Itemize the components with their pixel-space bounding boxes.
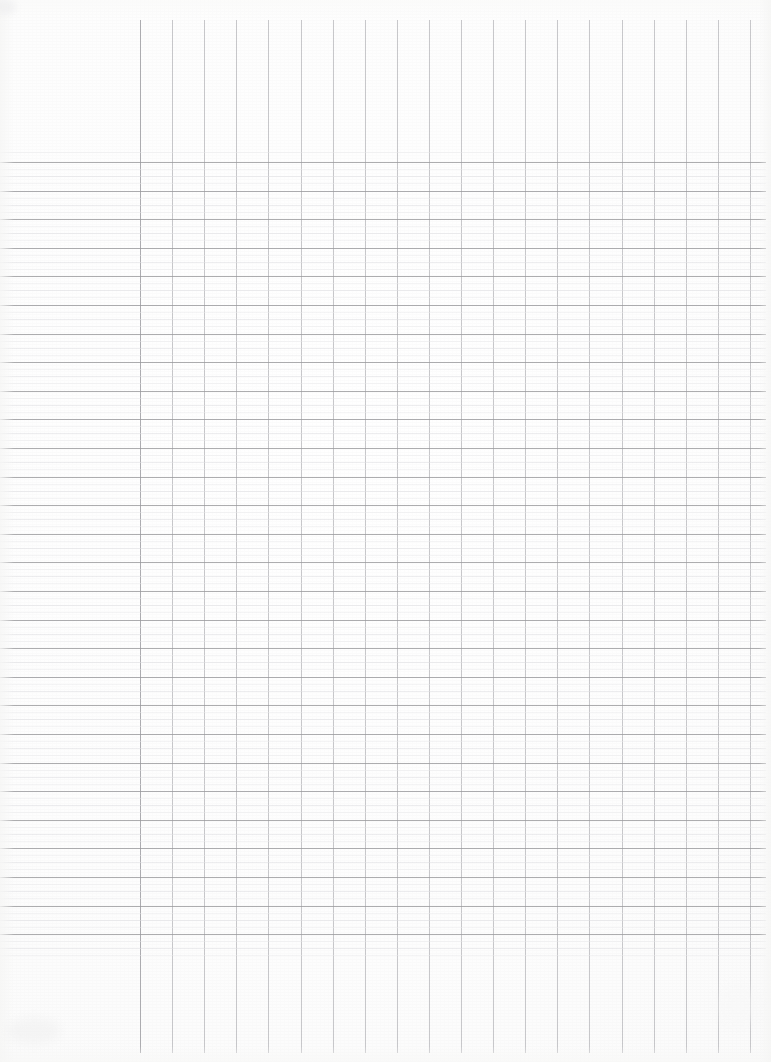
paper-background bbox=[0, 0, 771, 1062]
scanned-page bbox=[0, 0, 771, 1062]
